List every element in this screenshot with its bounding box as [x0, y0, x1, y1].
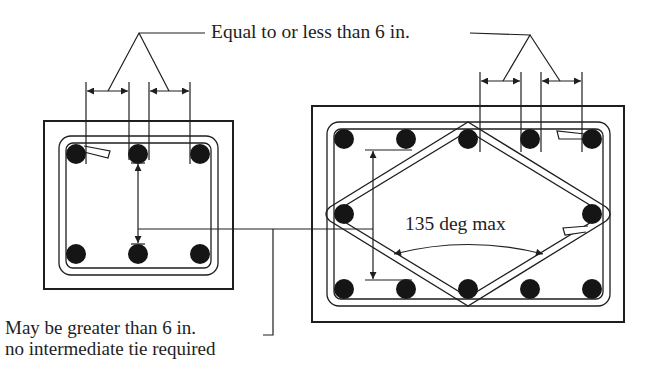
rebar	[190, 144, 210, 164]
rebar	[334, 129, 354, 149]
top-left-dimensions	[86, 33, 205, 164]
label-may-be-greater: May be greater than 6 in.	[5, 318, 196, 337]
label-equal-or-less-than-6in: Equal to or less than 6 in.	[211, 22, 410, 42]
diagram-canvas	[0, 0, 655, 370]
rebar	[458, 129, 478, 149]
rebar	[334, 279, 354, 299]
right-tie-hook	[557, 131, 585, 139]
rebar	[520, 129, 540, 149]
rebar	[458, 279, 478, 299]
label-135-deg-max: 135 deg max	[405, 214, 506, 234]
left-vertical-dimension	[131, 163, 145, 244]
tie-spacing-diagram: Equal to or less than 6 in. 135 deg max …	[0, 0, 655, 370]
rebar	[520, 279, 540, 299]
rebar	[190, 244, 210, 264]
left-tie-hook	[84, 146, 110, 158]
angle-arc	[394, 245, 543, 255]
label-no-intermediate-tie: no intermediate tie required	[5, 339, 216, 358]
rebar	[66, 244, 86, 264]
rebar	[128, 144, 148, 164]
rebar	[396, 129, 416, 149]
rebar	[582, 279, 602, 299]
rebar	[66, 144, 86, 164]
rebar	[128, 244, 148, 264]
rebar	[334, 204, 354, 224]
rebar	[582, 204, 602, 224]
rebar	[582, 129, 602, 149]
rebar	[396, 279, 416, 299]
